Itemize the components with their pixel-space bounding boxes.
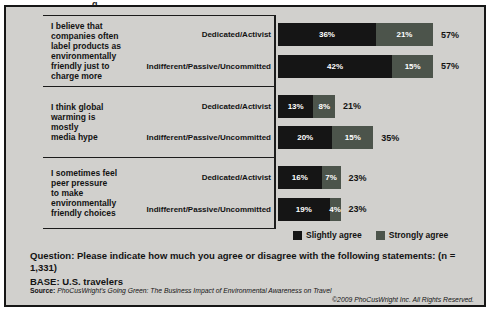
bar-total-label: 57% (441, 61, 459, 71)
slide-frame: I believe that companies often label pro… (4, 5, 486, 307)
bar-segment-strongly-agree: 21% (376, 23, 433, 46)
legend-item-slightly-agree: Slightly agree (293, 230, 362, 240)
legend-label-strongly-agree: Strongly agree (389, 230, 449, 240)
bar-segment-slightly-agree: 36% (278, 23, 376, 46)
statement-row-3: I sometimes feel peer pressure to make e… (43, 157, 274, 228)
bar-total-label: 23% (349, 204, 367, 214)
bar-total-label: 23% (349, 173, 367, 183)
bar-segment-slightly-agree: 19% (278, 198, 330, 221)
bar-segment-slightly-agree: 42% (278, 55, 392, 78)
legend-label-slightly-agree: Slightly agree (306, 230, 362, 240)
stacked-bar: 20%15% (278, 126, 373, 149)
legend-item-strongly-agree: Strongly agree (376, 230, 449, 240)
question-label: Question: (30, 250, 74, 261)
question-text: Please indicate how much you agree or di… (30, 250, 455, 273)
bar-segment-slightly-agree: 16% (278, 166, 322, 189)
statement-row-2: I think global warming is mostly media h… (43, 86, 274, 157)
bar-segment-strongly-agree: 7% (322, 166, 341, 189)
bar-segment-strongly-agree: 4% (330, 198, 341, 221)
bar-segment-strongly-agree: 8% (313, 95, 335, 118)
legend: Slightly agree Strongly agree (293, 230, 448, 240)
strongly-agree-swatch-icon (376, 231, 385, 240)
bar-segment-slightly-agree: 13% (278, 95, 313, 118)
bar-segment-slightly-agree: 20% (278, 126, 332, 149)
bar-total-label: 21% (343, 101, 361, 111)
stacked-bar: 19%4% (278, 198, 341, 221)
bar-total-label: 35% (381, 133, 399, 143)
source-line: Source: PhoCusWright's Going Green: The … (30, 287, 332, 294)
statement-row-1: I believe that companies often label pro… (43, 16, 274, 86)
bar-segment-strongly-agree: 15% (332, 126, 373, 149)
copyright-text: ©2009 PhoCusWright Inc. All Rights Reser… (332, 296, 474, 303)
stacked-bar: 13%8% (278, 95, 335, 118)
stacked-bar: 42%15% (278, 55, 433, 78)
statement-text: I think global warming is mostly media h… (43, 102, 103, 142)
statement-text: I believe that companies often label pro… (43, 21, 121, 81)
bar-total-label: 57% (441, 30, 459, 40)
source-text: PhoCusWright's Going Green: The Business… (57, 287, 331, 294)
stacked-bar: 16%7% (278, 166, 341, 189)
question-line: Question: Please indicate how much you a… (30, 250, 472, 274)
slightly-agree-swatch-icon (293, 231, 302, 240)
bar-segment-strongly-agree: 15% (392, 55, 433, 78)
question-block: Question: Please indicate how much you a… (30, 250, 472, 288)
statements-table: I believe that companies often label pro… (43, 15, 276, 229)
stacked-bar: 36%21% (278, 23, 433, 46)
source-label: Source: (30, 287, 55, 294)
statement-text: I sometimes feel peer pressure to make e… (43, 168, 117, 218)
